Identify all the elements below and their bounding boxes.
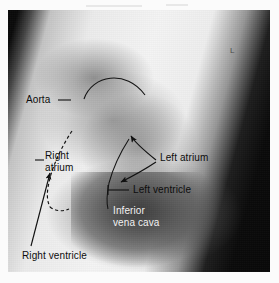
label-aorta: Aorta bbox=[26, 94, 50, 106]
film-side-marker: L bbox=[230, 46, 235, 55]
radiograph-plate: L bbox=[8, 10, 270, 272]
label-left-atrium: Left atrium bbox=[160, 152, 208, 164]
radiograph-figure: L Aorta Right atrium Left atrium bbox=[0, 0, 279, 283]
label-inferior-vena-cava: Inferior vena cava bbox=[113, 205, 160, 228]
label-right-ventricle: Right ventricle bbox=[22, 250, 87, 262]
label-left-ventricle: Left ventricle bbox=[133, 184, 191, 196]
scan-artifact bbox=[166, 4, 188, 6]
scan-artifact bbox=[86, 5, 142, 7]
label-right-atrium: Right atrium bbox=[45, 150, 73, 173]
